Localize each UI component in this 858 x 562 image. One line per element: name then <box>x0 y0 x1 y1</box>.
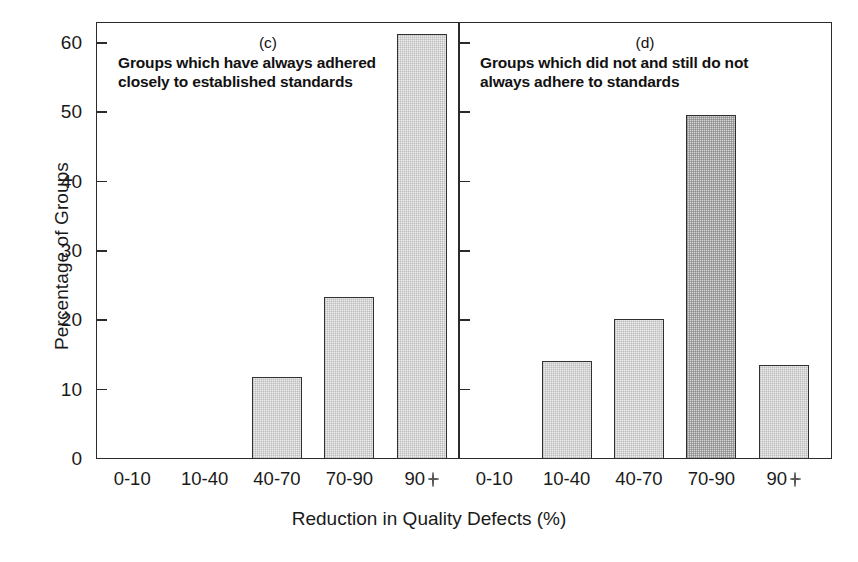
y-tick-label-20: 20 <box>40 310 82 329</box>
y-tick-mark-mid-40 <box>459 181 470 183</box>
y-tick-mark-left-40 <box>96 181 107 183</box>
x-tick-label-d-90+: 90 <box>736 468 832 490</box>
bar-d-10-40 <box>542 361 592 459</box>
plus-icon <box>790 472 801 487</box>
y-tick-label-50: 50 <box>40 102 82 121</box>
bar-c-40-70 <box>252 377 302 459</box>
x-tick-label-text: 10-40 <box>543 468 590 489</box>
x-tick-label-text: 40-70 <box>615 468 662 489</box>
y-tick-mark-left-30 <box>96 250 107 252</box>
bar-chart-figure: Percentage of Groups 0102030405060 (c) G… <box>0 0 858 562</box>
y-tick-mark-mid-60 <box>459 42 470 44</box>
bar-c-90+ <box>397 34 447 459</box>
y-tick-label-40: 40 <box>40 172 82 191</box>
x-tick-label-text: 90 <box>767 468 788 489</box>
x-tick-label-text: 0-10 <box>114 468 151 489</box>
y-tick-mark-mid-20 <box>459 319 470 321</box>
y-tick-mark-left-20 <box>96 319 107 321</box>
panel-caption-d-line2: always adhere to standards <box>480 73 810 92</box>
x-tick-label-text: 10-40 <box>181 468 228 489</box>
x-tick-label-text: 0-10 <box>476 468 513 489</box>
panel-divider-spine <box>458 22 460 459</box>
bar-c-70-90 <box>324 297 374 459</box>
panel-letter-d: (d) <box>480 34 810 53</box>
bar-d-90+ <box>759 365 809 459</box>
x-tick-label-text: 90 <box>405 468 426 489</box>
x-axis-title: Reduction in Quality Defects (%) <box>0 508 858 530</box>
x-tick-label-text: 70-90 <box>326 468 373 489</box>
y-tick-mark-mid-50 <box>459 111 470 113</box>
bar-d-40-70 <box>614 319 664 459</box>
bar-d-70-90 <box>686 115 736 459</box>
y-tick-mark-mid-10 <box>459 389 470 391</box>
panel-caption-c-line1: Groups which have always adhered <box>118 54 418 73</box>
x-tick-label-text: 40-70 <box>253 468 300 489</box>
y-tick-label-10: 10 <box>40 380 82 399</box>
y-tick-mark-left-50 <box>96 111 107 113</box>
plus-icon <box>428 472 439 487</box>
y-tick-mark-mid-30 <box>459 250 470 252</box>
panel-caption-c: (c) Groups which have always adhered clo… <box>118 34 418 92</box>
y-tick-label-60: 60 <box>40 33 82 52</box>
y-tick-mark-left-10 <box>96 389 107 391</box>
panel-caption-d-line1: Groups which did not and still do not <box>480 54 810 73</box>
y-tick-label-0: 0 <box>40 449 82 468</box>
panel-caption-d: (d) Groups which did not and still do no… <box>480 34 810 92</box>
panel-caption-c-line2: closely to established standards <box>118 73 418 92</box>
panel-letter-c: (c) <box>118 34 418 53</box>
x-tick-label-text: 70-90 <box>688 468 735 489</box>
y-tick-mark-left-60 <box>96 42 107 44</box>
y-tick-label-30: 30 <box>40 241 82 260</box>
